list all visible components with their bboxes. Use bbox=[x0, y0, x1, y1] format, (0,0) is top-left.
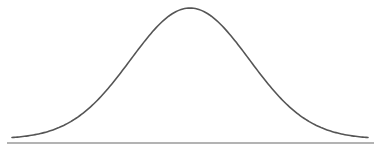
normal-distribution-curve bbox=[12, 8, 368, 138]
bell-curve-chart bbox=[0, 0, 382, 150]
